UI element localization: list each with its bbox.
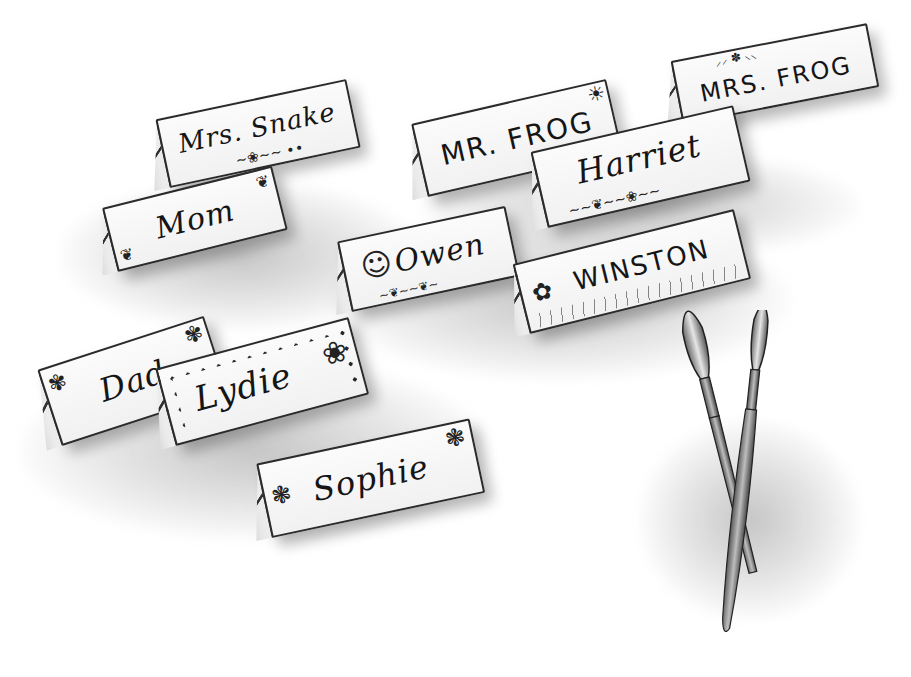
place-card-mrs-frog: MRS. FROG ⸝⸝ ✽ ⸜⸜ (671, 23, 880, 125)
paintbrushes (650, 310, 810, 650)
place-cards-illustration: Mrs. Snake ~❀~~ ∙∙ MR. FROG ☀ MRS. FROG … (0, 0, 911, 677)
smiley-face-icon: ☺ (358, 247, 395, 283)
